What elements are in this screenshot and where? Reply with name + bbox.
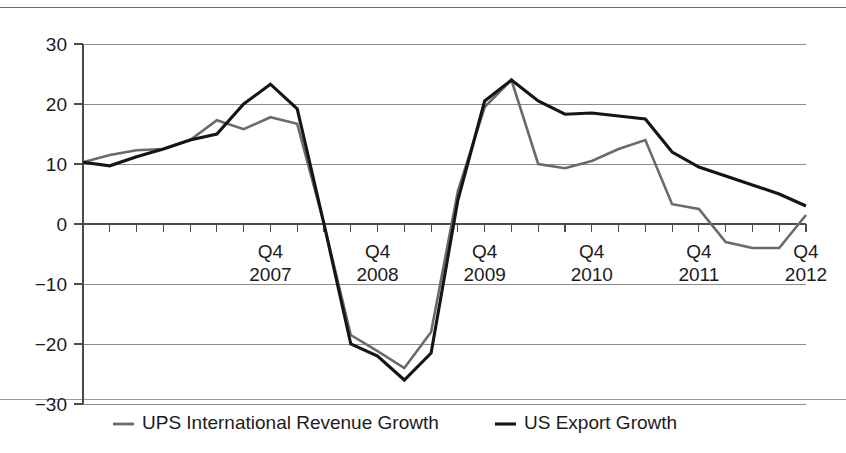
x-axis-quarter-label: Q4: [579, 241, 605, 262]
x-axis-year-label: 2007: [249, 264, 291, 285]
y-axis-label: 10: [46, 154, 67, 175]
x-axis-year-label: 2008: [356, 264, 398, 285]
x-axis-year-label: 2011: [678, 264, 719, 285]
x-tick-group: [83, 224, 806, 232]
x-axis-quarter-label: Q4: [365, 241, 391, 262]
y-axis-label: 20: [46, 94, 67, 115]
chart-legend: UPS International Revenue GrowthUS Expor…: [113, 412, 677, 433]
x-axis-quarter-label: Q4: [472, 241, 498, 262]
x-axis-quarter-label: Q4: [258, 241, 284, 262]
y-axis-label: 30: [46, 34, 67, 55]
y-axis-label: −10: [35, 274, 67, 295]
legend-label-ups-international-revenue-growth: UPS International Revenue Growth: [142, 412, 439, 433]
y-axis-label: 0: [56, 214, 67, 235]
y-axis-label: −20: [35, 334, 67, 355]
x-axis-year-label: 2009: [464, 264, 506, 285]
x-axis-year-label: 2010: [571, 264, 613, 285]
x-axis-quarter-label: Q4: [686, 241, 712, 262]
x-axis-quarter-label: Q4: [793, 241, 819, 262]
series-line-us-export-growth: [83, 80, 806, 380]
x-axis-year-label: 2012: [785, 264, 827, 285]
chart-figure: 3020100−10−20−30 Q42007Q42008Q42009Q4201…: [0, 0, 846, 453]
line-chart-canvas: 3020100−10−20−30 Q42007Q42008Q42009Q4201…: [0, 0, 846, 453]
y-tick-group: [74, 44, 83, 404]
series-group: [83, 80, 806, 380]
y-axis-labels: 3020100−10−20−30: [35, 34, 67, 415]
legend-label-us-export-growth: US Export Growth: [524, 412, 677, 433]
y-axis-label: −30: [35, 394, 67, 415]
